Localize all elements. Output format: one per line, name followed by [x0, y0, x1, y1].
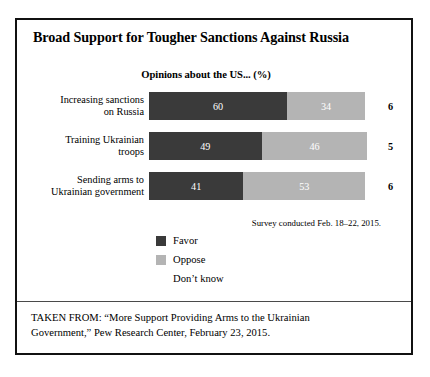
bar-value-dont-know: 6 — [388, 101, 393, 112]
source-attribution: TAKEN FROM: “More Support Providing Arms… — [31, 310, 391, 341]
bar-track: 6034 — [149, 92, 379, 120]
survey-note: Survey conducted Feb. 18–22, 2015. — [17, 218, 381, 228]
bar-row-label-line-2: on Russia — [17, 106, 144, 118]
legend-item-label: Don’t know — [173, 273, 224, 284]
figure-container: Broad Support for Tougher Sanctions Agai… — [15, 18, 413, 355]
favor-swatch-icon — [156, 236, 166, 246]
bar-row-label: Training Ukrainiantroops — [17, 134, 144, 159]
section-divider — [17, 301, 411, 302]
legend-item-label: Favor — [173, 235, 198, 246]
legend-item: Oppose — [156, 250, 224, 269]
chart-plot-area: Increasing sanctionson Russia60346Traini… — [17, 92, 411, 204]
oppose-swatch-icon — [156, 255, 166, 265]
bar-row-label: Increasing sanctionson Russia — [17, 94, 144, 119]
bar-track: 4946 — [149, 132, 379, 160]
source-line-1: TAKEN FROM: “More Support Providing Arms… — [31, 310, 391, 325]
bar-segment-oppose: 53 — [243, 172, 365, 200]
bar-value-dont-know: 5 — [388, 141, 393, 152]
bar-row-label-line-1: Training Ukrainian — [17, 134, 144, 146]
legend-item: Don’t know — [156, 269, 224, 288]
bar-segment-favor: 60 — [149, 92, 287, 120]
bar-row: Increasing sanctionson Russia60346 — [17, 92, 411, 120]
bar-segment-oppose: 46 — [262, 132, 368, 160]
bar-row: Sending arms toUkrainian government41536 — [17, 172, 411, 200]
bar-row: Training Ukrainiantroops49465 — [17, 132, 411, 160]
bar-row-label: Sending arms toUkrainian government — [17, 174, 144, 199]
legend-item: Favor — [156, 231, 224, 250]
source-line-2: Government,” Pew Research Center, Februa… — [31, 325, 391, 340]
bar-row-label-line-1: Sending arms to — [17, 174, 144, 186]
legend-item-label: Oppose — [173, 254, 205, 265]
bar-segment-favor: 49 — [149, 132, 262, 160]
bar-segment-oppose: 34 — [287, 92, 365, 120]
bar-row-label-line-2: troops — [17, 146, 144, 158]
bar-segment-favor: 41 — [149, 172, 243, 200]
bar-row-label-line-2: Ukrainian government — [17, 186, 144, 198]
chart-subtitle: Opinions about the US... (%) — [17, 69, 395, 80]
bar-row-label-line-1: Increasing sanctions — [17, 94, 144, 106]
chart-title: Broad Support for Tougher Sanctions Agai… — [33, 30, 399, 46]
dont-know-swatch-icon — [156, 274, 166, 284]
chart-legend: FavorOpposeDon’t know — [156, 231, 224, 288]
bar-value-dont-know: 6 — [388, 181, 393, 192]
bar-track: 4153 — [149, 172, 379, 200]
